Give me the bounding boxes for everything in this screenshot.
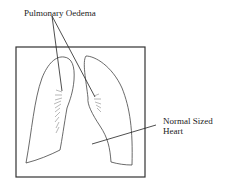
chest-xray-diagram: Pulmonary Oedema Normal Sized Heart xyxy=(0,0,227,184)
left-lung-outline xyxy=(84,56,132,165)
pulmonary-oedema-label: Pulmonary Oedema xyxy=(24,8,96,18)
heart-label-line1: Normal Sized xyxy=(163,116,213,126)
oedema-hatching xyxy=(54,90,101,133)
xray-frame xyxy=(16,47,145,177)
diagram-drawing xyxy=(0,0,227,184)
oedema-pointer-left xyxy=(52,16,62,91)
heart-label-line2: Heart xyxy=(163,126,183,136)
right-lung-outline xyxy=(26,57,74,163)
